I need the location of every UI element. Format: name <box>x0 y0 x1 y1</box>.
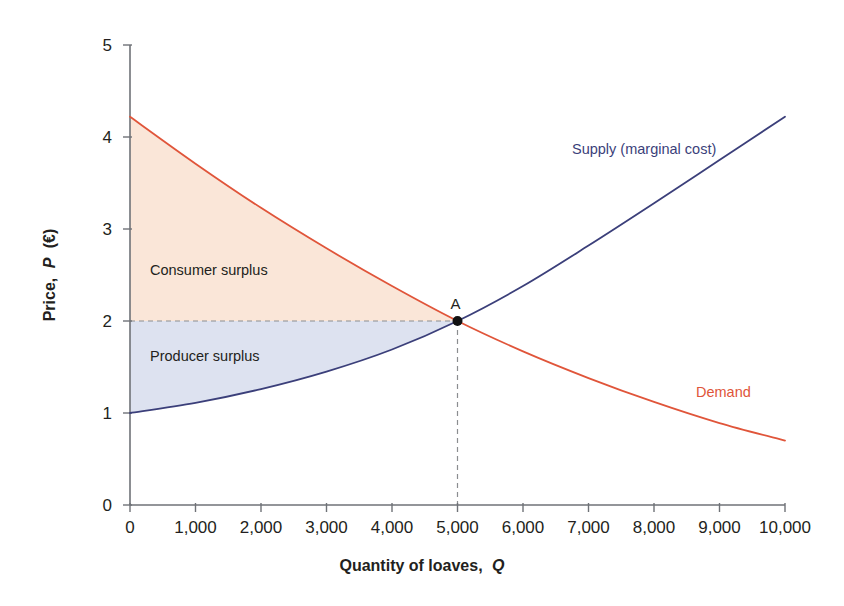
x-tick-label: 2,000 <box>240 518 283 537</box>
x-tick-label: 10,000 <box>759 518 811 537</box>
x-tick-label: 5,000 <box>436 518 479 537</box>
chart-canvas: 012345 01,0002,0003,0004,0005,0006,0007,… <box>0 0 844 606</box>
x-tick-label: 3,000 <box>305 518 348 537</box>
y-axis-tick-labels: 012345 <box>103 36 112 515</box>
x-tick-label: 6,000 <box>502 518 545 537</box>
svg-text:Price, P (€): Price, P (€) <box>41 229 58 322</box>
supply-demand-chart: 012345 01,0002,0003,0004,0005,0006,0007,… <box>0 0 844 606</box>
x-tick-label: 4,000 <box>371 518 414 537</box>
x-tick-label: 0 <box>125 518 134 537</box>
supply-series-label: Supply (marginal cost) <box>572 141 716 157</box>
equilibrium-point-label: A <box>450 295 460 312</box>
x-tick-label: 8,000 <box>633 518 676 537</box>
y-tick-label: 1 <box>103 404 112 423</box>
producer-surplus-label: Producer surplus <box>150 348 260 364</box>
svg-text:Quantity of loaves, Q: Quantity of loaves, Q <box>339 557 505 574</box>
x-tick-label: 1,000 <box>174 518 217 537</box>
x-tick-label: 9,000 <box>698 518 741 537</box>
demand-series-label: Demand <box>696 384 751 400</box>
y-axis-title: Price, P (€) <box>41 229 58 322</box>
x-axis-title: Quantity of loaves, Q <box>339 557 505 574</box>
x-axis-title-variable: Q <box>492 557 505 574</box>
x-axis-title-main: Quantity of loaves, <box>339 557 482 574</box>
y-tick-label: 5 <box>103 36 112 55</box>
y-tick-label: 2 <box>103 312 112 331</box>
x-tick-label: 7,000 <box>567 518 610 537</box>
y-tick-label: 0 <box>103 496 112 515</box>
y-axis-title-unit: (€) <box>41 229 58 249</box>
consumer-surplus-label: Consumer surplus <box>150 262 268 278</box>
y-tick-label: 3 <box>103 220 112 239</box>
x-axis-tick-labels: 01,0002,0003,0004,0005,0006,0007,0008,00… <box>125 518 811 537</box>
y-axis-title-variable: P <box>41 257 58 268</box>
y-tick-label: 4 <box>103 128 112 147</box>
y-axis-title-main: Price, <box>41 278 58 322</box>
consumer-surplus-region <box>130 117 458 321</box>
producer-surplus-region <box>130 321 458 413</box>
equilibrium-point-marker <box>453 316 463 326</box>
